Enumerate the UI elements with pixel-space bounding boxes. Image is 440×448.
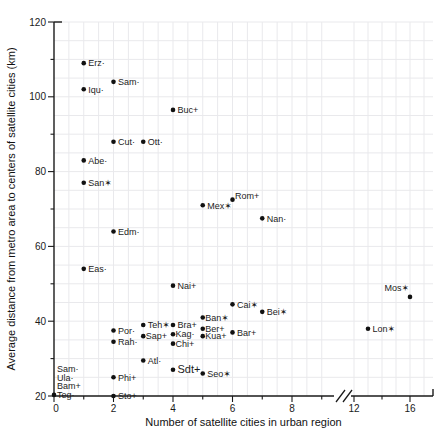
y-tick-label: 100 — [29, 91, 46, 102]
point-label: Sap+ — [146, 331, 167, 341]
x-tick-label: 12 — [348, 403, 360, 414]
data-point — [81, 267, 86, 272]
point-label: Nai+ — [178, 281, 197, 291]
point-label: Kua+ — [205, 331, 226, 341]
data-point — [171, 368, 176, 373]
point-label: Por· — [118, 326, 135, 336]
scatter-canvas: 20406080100120024681216Erz·Sam·Iqu·Buc+C… — [0, 0, 440, 448]
x-axis-title: Number of satellite cities in urban regi… — [54, 416, 433, 428]
x-tick-label: 16 — [404, 403, 416, 414]
point-label: Ott· — [148, 137, 163, 147]
data-point — [230, 302, 235, 307]
y-tick-label: 20 — [35, 391, 47, 402]
point-label: Abe· — [88, 156, 107, 166]
data-point — [171, 323, 176, 328]
point-label: Rah· — [118, 337, 138, 347]
point-label: Buc+ — [178, 105, 199, 115]
data-point — [408, 295, 413, 300]
x-tick-label: 2 — [111, 403, 117, 414]
y-tick-label: 60 — [35, 241, 47, 252]
point-label: Seo✶ — [207, 369, 231, 379]
point-label: Bar+ — [237, 328, 256, 338]
point-label: Chi+ — [176, 339, 195, 349]
tick-label-layer: 20406080100120024681216 — [29, 17, 416, 415]
data-point — [111, 80, 116, 85]
data-point — [81, 61, 86, 66]
y-tick-label: 120 — [29, 17, 46, 28]
data-point — [260, 310, 265, 315]
y-tick-label: 80 — [35, 166, 47, 177]
tick-layer — [48, 22, 410, 402]
point-label: Bei✶ — [267, 307, 288, 317]
data-point — [81, 87, 86, 92]
data-point — [111, 394, 116, 399]
point-label: Erz· — [88, 58, 105, 68]
data-point — [171, 108, 176, 113]
data-point — [111, 139, 116, 144]
point-label: Cut· — [118, 137, 135, 147]
data-point — [81, 158, 86, 163]
point-label: Lon✶ — [373, 324, 396, 334]
grid-layer — [54, 22, 433, 396]
cluster-label: Teg· — [57, 390, 75, 400]
data-point — [260, 216, 265, 221]
data-point — [111, 229, 116, 234]
data-point — [111, 375, 116, 380]
data-point — [111, 328, 116, 333]
point-label: Iqu· — [88, 85, 104, 95]
y-tick-label: 40 — [35, 316, 47, 327]
data-point — [171, 283, 176, 288]
point-label: Sdt+ — [178, 363, 201, 375]
point-label: Atl· — [148, 356, 162, 366]
data-point — [141, 323, 146, 328]
data-point — [141, 358, 146, 363]
point-label: Phi+ — [118, 373, 136, 383]
point-label: Cai✶ — [237, 300, 258, 310]
x-tick-label: 4 — [170, 403, 176, 414]
point-label: Edm· — [118, 227, 140, 237]
point-label: Ban✶ — [205, 313, 229, 323]
data-point — [52, 393, 57, 398]
x-tick-label: 0 — [53, 403, 59, 414]
point-label: Teh✶ — [148, 320, 170, 330]
data-point — [230, 330, 235, 335]
x-tick-label: 6 — [230, 403, 236, 414]
data-point — [141, 139, 146, 144]
point-label: Nan· — [267, 214, 287, 224]
data-point — [200, 371, 205, 376]
point-label-layer: Erz·Sam·Iqu·Buc+Cut·Ott·Abe·San✶Mex✶Rom+… — [57, 58, 409, 401]
scatter-figure: 20406080100120024681216Erz·Sam·Iqu·Buc+C… — [0, 0, 440, 448]
data-point — [366, 326, 371, 331]
point-label: Rom+ — [235, 191, 259, 201]
point-label: Mos✶ — [385, 283, 410, 293]
data-point — [200, 203, 205, 208]
x-tick-label: 8 — [289, 403, 295, 414]
point-label: San✶ — [88, 178, 112, 188]
data-point — [81, 181, 86, 186]
point-label: Sto+ — [118, 391, 137, 401]
point-label: Mex✶ — [207, 201, 232, 211]
data-point — [111, 339, 116, 344]
point-label: Sam· — [118, 77, 140, 87]
y-axis-title: Average distance from metro area to cent… — [5, 0, 17, 419]
point-label: Eas· — [88, 264, 107, 274]
